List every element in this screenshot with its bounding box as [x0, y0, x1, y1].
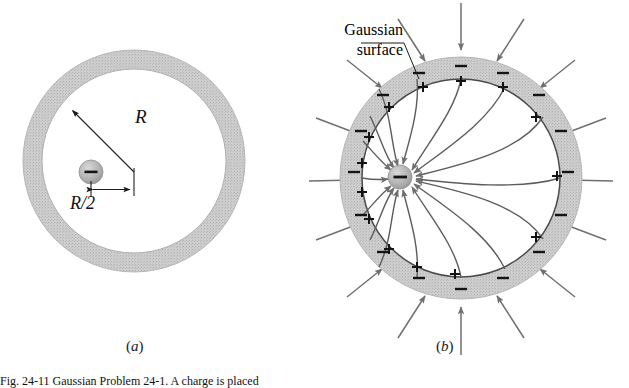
offset-label-R-over-2: R/2	[70, 193, 95, 214]
panel-b-paren-close: )	[449, 338, 454, 354]
gaussian-surface-label-line2: surface	[275, 40, 403, 60]
panel-a-paren-close: )	[139, 338, 144, 354]
figure-caption: Fig. 24-11 Gaussian Problem 24-1. A char…	[0, 374, 629, 388]
gaussian-surface-label: Gaussian surface	[275, 20, 403, 60]
radius-label-R: R	[135, 106, 147, 128]
panel-label-a: (a)	[126, 338, 144, 355]
gaussian-surface-label-line1: Gaussian	[275, 20, 403, 40]
negative-point-charge-b	[388, 165, 412, 189]
panel-label-b: (b)	[436, 338, 454, 355]
panel-a-letter: a	[131, 338, 139, 354]
panel-b-letter: b	[441, 338, 449, 354]
